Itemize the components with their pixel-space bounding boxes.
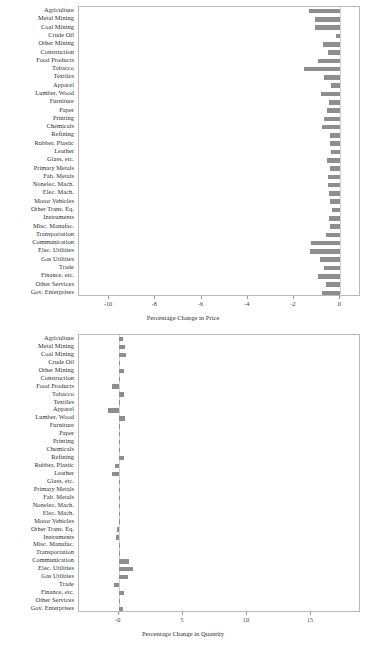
category-label: Other Trans. Eq. [0, 205, 74, 212]
category-label: Communication [0, 238, 74, 245]
category-label: Metal Mining [0, 342, 74, 349]
bar [330, 133, 340, 138]
bar [336, 34, 341, 39]
bar [116, 535, 119, 539]
bar [119, 416, 125, 420]
x-tick-mark [246, 612, 247, 615]
category-label: Food Products [0, 56, 74, 63]
category-label: Fab. Metals [0, 172, 74, 179]
category-label: Transportation [0, 548, 74, 555]
x-tick-mark [293, 296, 294, 299]
category-label: Transportation [0, 230, 74, 237]
category-label: Trade [0, 580, 74, 587]
x-tick-label: -6 [198, 300, 203, 307]
x-tick-label: 0 [338, 300, 341, 307]
category-label: Gov. Enterprises [0, 288, 74, 295]
bar [119, 551, 120, 555]
bar [318, 274, 340, 279]
bar [119, 504, 120, 508]
x-tick-mark [118, 612, 119, 615]
bar [119, 361, 121, 365]
bar [327, 158, 341, 163]
category-label: Instruments [0, 213, 74, 220]
category-label: Other Services [0, 596, 74, 603]
category-label: Metal Mining [0, 14, 74, 21]
category-label: Crude Oil [0, 358, 74, 365]
category-label: Finance, etc. [0, 588, 74, 595]
category-label: Crude Oil [0, 31, 74, 38]
bar [119, 392, 124, 396]
plot-panel-bottom [78, 334, 360, 612]
bar [324, 266, 340, 271]
category-label: Textiles [0, 398, 74, 405]
category-label: Apparel [0, 405, 74, 412]
bar [323, 42, 340, 47]
bar [119, 377, 120, 381]
bar [119, 607, 123, 611]
x-tick-label: -8 [152, 300, 157, 307]
category-label: Fab. Metals [0, 493, 74, 500]
category-label: Refining [0, 130, 74, 137]
x-axis-title-top: Percentage Change in Price [0, 314, 366, 321]
category-label: Other Mining [0, 39, 74, 46]
x-tick-mark [182, 612, 183, 615]
x-tick-label: 5 [180, 616, 183, 623]
x-tick-label: -4 [244, 300, 249, 307]
x-axis-bottom: -051015 [78, 612, 360, 626]
category-label: Lumber, Wood [0, 413, 74, 420]
category-label: Nonelec. Mach. [0, 180, 74, 187]
x-tick-label: -0 [115, 616, 120, 623]
bar [322, 291, 340, 296]
bar [326, 233, 340, 238]
bar [328, 50, 340, 55]
category-label: Leather [0, 147, 74, 154]
bar [119, 440, 120, 444]
category-label: Other Trans. Eq. [0, 525, 74, 532]
category-label: Furniture [0, 421, 74, 428]
bar [329, 216, 340, 221]
bar [320, 257, 341, 262]
x-tick-label: -10 [104, 300, 112, 307]
category-label: Instruments [0, 533, 74, 540]
category-label: Glass, etc. [0, 477, 74, 484]
bar [322, 125, 340, 130]
category-label: Furniture [0, 97, 74, 104]
category-label: Printing [0, 114, 74, 121]
bar [108, 408, 119, 412]
category-label: Refining [0, 453, 74, 460]
bar [119, 559, 129, 563]
bar [119, 400, 120, 404]
bar [327, 108, 340, 113]
category-label: Communication [0, 556, 74, 563]
bar [119, 599, 120, 603]
category-label: Elec. Mach. [0, 188, 74, 195]
category-label: Other Services [0, 280, 74, 287]
plot-panel-top [78, 6, 360, 296]
category-label: Coal Mining [0, 23, 74, 30]
category-label: Trade [0, 263, 74, 270]
x-tick-label: 10 [243, 616, 249, 623]
bar [331, 83, 340, 88]
bar [330, 141, 340, 146]
category-label: Glass, etc. [0, 155, 74, 162]
category-label: Lumber, Wood [0, 89, 74, 96]
bar [321, 92, 341, 97]
bar [315, 25, 340, 30]
category-label: Printing [0, 437, 74, 444]
bar [119, 496, 120, 500]
bar [119, 591, 124, 595]
category-label: Nonelec. Mach. [0, 501, 74, 508]
bar [315, 17, 340, 22]
bar [119, 512, 120, 516]
category-label: Gas Utilities [0, 572, 74, 579]
x-tick-mark [339, 296, 340, 299]
category-label: Motor Vehicles [0, 197, 74, 204]
category-label: Apparel [0, 81, 74, 88]
bar [119, 480, 120, 484]
bar [328, 175, 340, 180]
category-label: Construction [0, 374, 74, 381]
chart-percentage-change-in-price: AgricultureMetal MiningCoal MiningCrude … [0, 0, 366, 330]
bar [119, 575, 129, 579]
category-label: Rubber, Plastic [0, 139, 74, 146]
x-tick-label: -2 [290, 300, 295, 307]
